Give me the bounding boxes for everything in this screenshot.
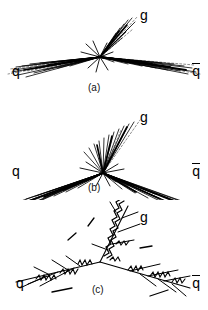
panel-b-quark-label: q [12,164,20,178]
panel-a: q q g (a) [0,0,208,100]
panel-c-parton-shower [0,200,208,310]
panel-a-antiquark-glyph: q [192,64,200,78]
panel-a-gluon-label: g [140,8,148,22]
panel-b-caption: (b) [88,182,100,193]
panel-b-antiquark-label: q [192,164,200,178]
panel-a-quark-label: q [12,64,20,78]
panel-a-tracks [0,0,208,100]
panel-a-antiquark-label: q [192,64,200,78]
panel-b-tracks [0,100,208,200]
panel-b-antiquark-glyph: q [192,164,200,178]
panel-c-antiquark-label: q [192,276,200,290]
panel-b-gluon-label: g [140,110,148,124]
panel-c-quark-label: q [16,276,24,290]
figure-canvas: q q g (a) [0,0,208,310]
panel-b: q q g (b) [0,100,208,200]
panel-c-caption: (c) [92,284,104,295]
panel-c: q q g (c) [0,200,208,310]
panel-c-antiquark-glyph: q [192,276,200,290]
panel-a-caption: (a) [88,82,100,93]
panel-c-gluon-label: g [140,210,148,224]
